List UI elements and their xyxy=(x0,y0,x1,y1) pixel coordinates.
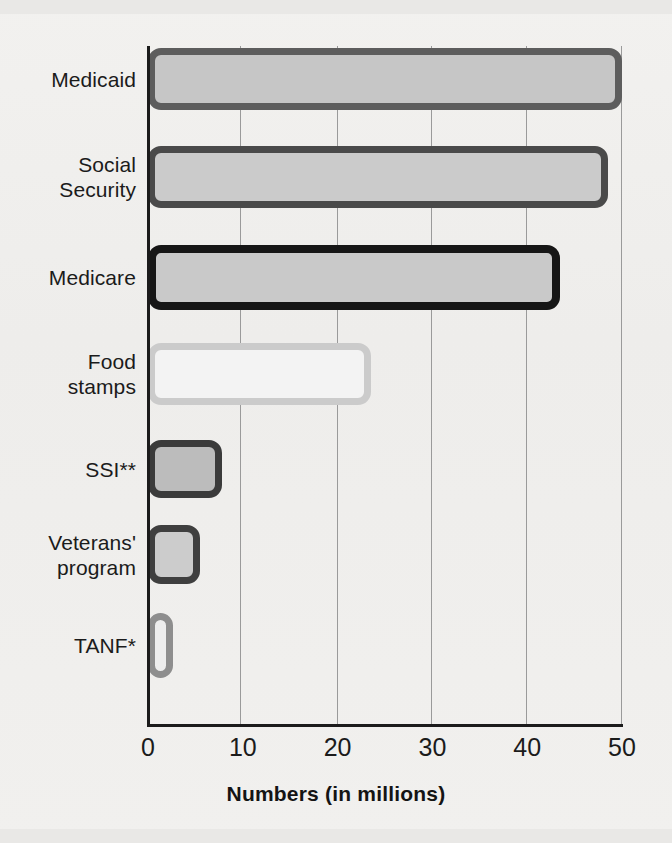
x-axis-line xyxy=(147,724,623,727)
x-tick-30: 30 xyxy=(402,733,462,762)
x-tick-20: 20 xyxy=(308,733,368,762)
category-label-line: Veterans' xyxy=(8,530,136,555)
x-tick-10: 10 xyxy=(213,733,273,762)
chart-page: MedicaidSocialSecurityMedicareFoodstamps… xyxy=(0,0,672,843)
y-axis-line xyxy=(147,46,150,727)
x-axis-title: Numbers (in millions) xyxy=(0,782,672,806)
bar-6 xyxy=(148,525,200,584)
category-label-line: Social xyxy=(8,152,136,177)
category-label-line: Medicare xyxy=(8,265,136,290)
category-label-2: SocialSecurity xyxy=(8,152,136,202)
category-label-line: TANF* xyxy=(8,633,136,658)
x-tick-50: 50 xyxy=(592,733,652,762)
x-tick-40: 40 xyxy=(497,733,557,762)
bars-layer xyxy=(148,46,622,725)
category-label-line: stamps xyxy=(8,374,136,399)
category-label-3: Medicare xyxy=(8,265,136,290)
category-label-line: Security xyxy=(8,177,136,202)
category-label-line: Food xyxy=(8,349,136,374)
category-label-line: program xyxy=(8,555,136,580)
category-label-4: Foodstamps xyxy=(8,349,136,399)
horizontal-bar-chart: MedicaidSocialSecurityMedicareFoodstamps… xyxy=(0,0,672,843)
bar-2 xyxy=(148,146,608,208)
category-label-line: SSI** xyxy=(8,457,136,482)
bar-5 xyxy=(148,440,222,498)
x-tick-0: 0 xyxy=(118,733,178,762)
bar-3 xyxy=(148,245,560,310)
category-label-5: SSI** xyxy=(8,457,136,482)
bar-4 xyxy=(148,343,371,405)
category-label-1: Medicaid xyxy=(8,67,136,92)
category-label-7: TANF* xyxy=(8,633,136,658)
bar-7 xyxy=(148,613,173,678)
category-label-6: Veterans'program xyxy=(8,530,136,580)
bar-1 xyxy=(148,48,622,110)
category-label-line: Medicaid xyxy=(8,67,136,92)
